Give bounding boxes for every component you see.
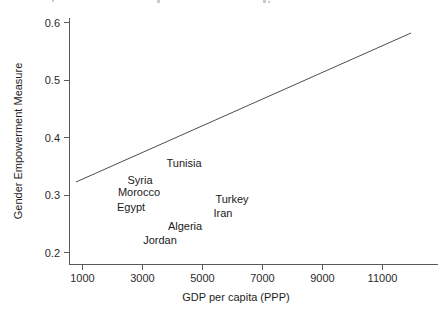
data-point-label-jordan: Jordan xyxy=(143,234,177,246)
data-point-label-syria: Syria xyxy=(127,174,153,186)
data-point-label-egypt: Egypt xyxy=(117,201,145,213)
y-tick-label: 0.5 xyxy=(45,74,60,86)
y-tick-label: 0.4 xyxy=(45,132,60,144)
chart-figure: 0.6 0.5 0.4 0.3 0.2 1000 3000 5000 7000 … xyxy=(0,0,440,311)
data-point-label-morocco: Morocco xyxy=(118,186,160,198)
y-axis-title: Gender Empowerment Measure xyxy=(12,63,24,220)
regression-trend-line xyxy=(76,33,411,182)
data-point-label-iran: Iran xyxy=(214,207,233,219)
x-tick-label: 9000 xyxy=(310,272,334,284)
data-point-labels: Tunisia Syria Morocco Egypt Turkey Iran … xyxy=(117,157,249,246)
x-tick-label: 7000 xyxy=(250,272,274,284)
x-axis-title: GDP per capita (PPP) xyxy=(182,291,289,303)
y-tick-label: 0.6 xyxy=(45,17,60,29)
y-axis-ticks: 0.6 0.5 0.4 0.3 0.2 xyxy=(45,17,70,259)
data-point-label-tunisia: Tunisia xyxy=(166,157,202,169)
x-tick-label: 5000 xyxy=(190,272,214,284)
data-point-label-algeria: Algeria xyxy=(168,220,203,232)
x-tick-label: 11000 xyxy=(368,272,398,284)
cropped-title-remnant xyxy=(52,0,270,3)
x-axis-ticks: 1000 3000 5000 7000 9000 11000 xyxy=(70,265,397,285)
chart-plot-area: 0.6 0.5 0.4 0.3 0.2 1000 3000 5000 7000 … xyxy=(0,0,440,311)
y-tick-label: 0.3 xyxy=(45,189,60,201)
y-tick-label: 0.2 xyxy=(45,247,60,259)
x-tick-label: 3000 xyxy=(130,272,154,284)
x-tick-label: 1000 xyxy=(70,272,94,284)
data-point-label-turkey: Turkey xyxy=(215,193,249,205)
